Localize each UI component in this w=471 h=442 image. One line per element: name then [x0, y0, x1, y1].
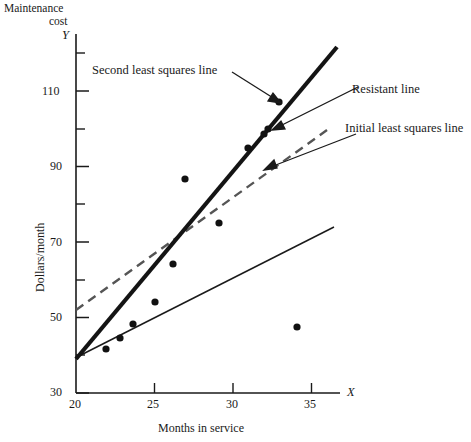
data-point-outlier: [293, 323, 300, 330]
data-point: [102, 345, 109, 352]
y-axis-title-line-2: cost: [49, 15, 68, 28]
data-point: [181, 175, 188, 182]
x-axis-label: Months in service: [158, 421, 244, 436]
data-point: [264, 125, 271, 132]
annotation-second-least-squares-line: Second least squares line: [92, 63, 217, 78]
data-point: [215, 219, 222, 226]
y-tick-label-50: 50: [50, 310, 62, 325]
data-point: [169, 260, 176, 267]
y-axis-symbol: Y: [62, 28, 69, 43]
y-tick-label-30: 30: [50, 385, 62, 400]
y-tick-label-110: 110: [42, 84, 60, 99]
annotation-resistant-line: Resistant line: [352, 82, 420, 97]
figure-maintenance-cost-scatter: Maintenance cost Y 110 90 70 50 30 Dolla…: [0, 0, 471, 442]
series-initial-least-squares-line: [76, 130, 327, 310]
data-points: [102, 98, 300, 352]
data-point: [244, 144, 251, 151]
x-axis-ticks: [155, 383, 312, 393]
series-resistant-line: [76, 227, 334, 358]
x-tick-label-25: 25: [147, 397, 159, 412]
y-tick-label-90: 90: [50, 159, 62, 174]
y-axis-label: Dollars/month: [33, 223, 48, 292]
series-second-least-squares-line: [76, 47, 337, 359]
data-point: [151, 298, 158, 305]
annotation-initial-least-squares-line: Initial least squares line: [345, 121, 463, 136]
y-tick-label-70: 70: [50, 235, 62, 250]
x-axis-symbol: X: [347, 385, 355, 400]
data-point: [129, 320, 136, 327]
chart-canvas: [0, 0, 471, 442]
x-tick-label-20: 20: [69, 397, 81, 412]
y-axis-title-line-1: Maintenance: [4, 2, 63, 15]
annotation-leaders: [232, 72, 358, 170]
data-point: [116, 334, 123, 341]
x-tick-label-30: 30: [226, 397, 238, 412]
x-tick-label-35: 35: [304, 397, 316, 412]
